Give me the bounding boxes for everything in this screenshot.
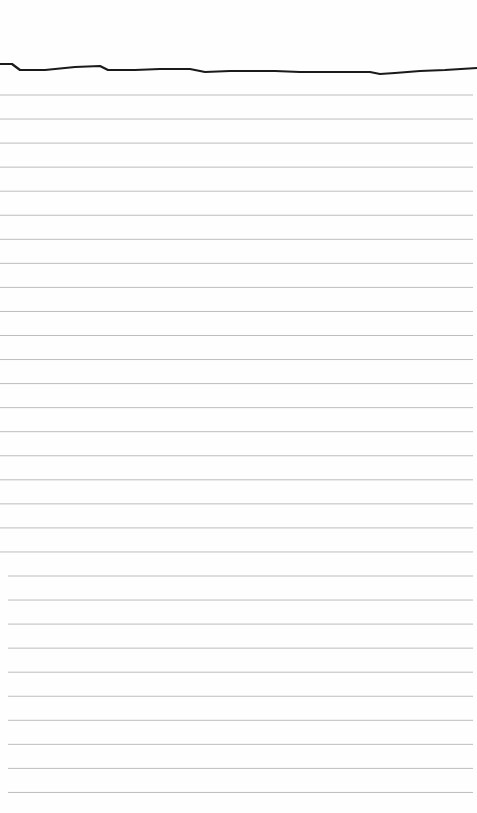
paper-drawing — [0, 0, 477, 813]
lined-paper — [0, 0, 477, 813]
torn-top-edge — [0, 64, 477, 74]
